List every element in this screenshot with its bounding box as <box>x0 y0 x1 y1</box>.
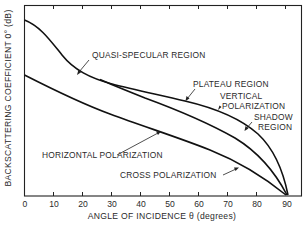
cross-polarization-label: CROSS POLARIZATION <box>120 170 217 180</box>
y-axis-title: BACKSCATTERING COEFFICIENT 0° (dB) <box>3 9 13 186</box>
x-tick-70: 70 <box>223 199 233 209</box>
x-tick-20: 20 <box>78 199 88 209</box>
x-tick-labels: 0 10 20 30 40 50 60 70 80 90 <box>23 199 292 209</box>
x-tick-0: 0 <box>23 199 28 209</box>
horizontal-polarization-label: HORIZONTAL POLARIZATION <box>42 150 163 160</box>
quasi-specular-label: QUASI-SPECULAR REGION <box>92 50 206 60</box>
x-tick-40: 40 <box>136 199 146 209</box>
x-tick-50: 50 <box>165 199 175 209</box>
x-tick-10: 10 <box>49 199 59 209</box>
vertical-label-line2: POLARIZATION <box>222 101 285 111</box>
plateau-label: PLATEAU REGION <box>193 79 269 89</box>
shadow-label-line2: REGION <box>258 122 292 132</box>
x-tick-30: 30 <box>107 199 117 209</box>
x-tick-80: 80 <box>252 199 262 209</box>
x-axis-title: ANGLE OF INCIDENCE θ (degrees) <box>88 211 236 221</box>
vertical-label-line1: VERTICAL <box>220 91 263 101</box>
x-tick-90: 90 <box>282 199 292 209</box>
backscatter-chart: 0 10 20 30 40 50 60 70 80 90 ANGLE OF IN… <box>0 0 308 225</box>
bottom-ticks <box>54 192 257 196</box>
shadow-label-line1: SHADOW <box>254 112 293 122</box>
x-tick-60: 60 <box>194 199 204 209</box>
